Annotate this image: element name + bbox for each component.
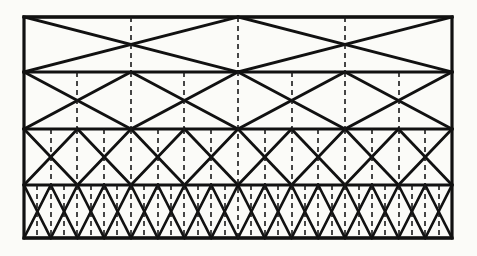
figure-root: [0, 0, 477, 256]
truss-diagram: [0, 0, 477, 256]
